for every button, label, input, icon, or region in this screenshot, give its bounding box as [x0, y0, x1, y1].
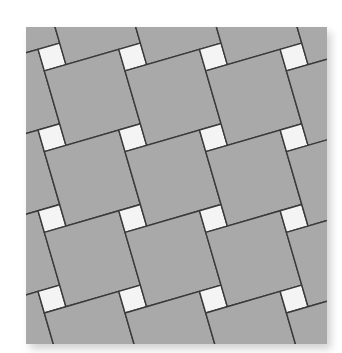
tile-pattern-frame	[26, 27, 327, 344]
tile-pattern	[26, 27, 327, 344]
